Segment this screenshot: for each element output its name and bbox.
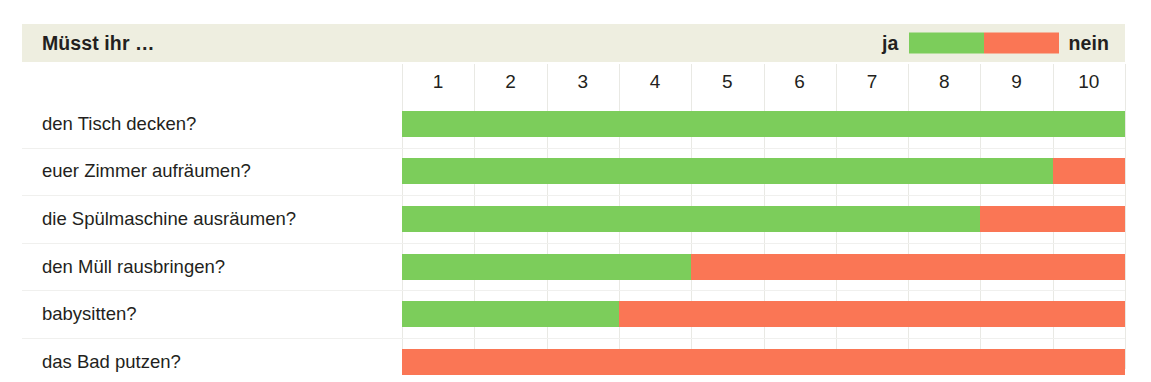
row-label: euer Zimmer aufräumen? [42, 160, 251, 182]
stacked-bar [402, 206, 1125, 232]
legend-label-no: nein [1069, 32, 1110, 55]
row-label: den Tisch decken? [42, 113, 196, 135]
bar-segment-yes [402, 254, 691, 280]
row-separator [22, 148, 1125, 149]
x-axis-tick-6: 6 [764, 64, 836, 100]
legend-label-yes: ja [882, 32, 898, 55]
x-axis-tick-1: 1 [402, 64, 474, 100]
bar-segment-no [619, 301, 1125, 327]
bar-segment-no [980, 206, 1125, 232]
x-axis-tick-10: 10 [1053, 64, 1125, 100]
x-axis-tick-8: 8 [908, 64, 980, 100]
bar-segment-yes [402, 301, 619, 327]
bar-segment-yes [402, 206, 980, 232]
row-label: babysitten? [42, 303, 137, 325]
stacked-bar [402, 254, 1125, 280]
chart-header-band: Müsst ihr … ja nein [22, 24, 1125, 62]
row-separator [22, 338, 1125, 339]
x-axis-tick-5: 5 [691, 64, 763, 100]
chart-rows: den Tisch decken?euer Zimmer aufräumen?d… [0, 100, 1151, 382]
page-title: Müsst ihr … [42, 32, 155, 55]
bar-segment-no [691, 254, 1125, 280]
x-axis-scale: 12345678910 [402, 64, 1125, 100]
x-axis-tick-7: 7 [836, 64, 908, 100]
chart-row: das Bad putzen? [0, 338, 1151, 382]
survey-bar-chart: Müsst ihr … ja nein 12345678910 den Tisc… [0, 0, 1151, 382]
chart-row: babysitten? [0, 290, 1151, 338]
row-separator [22, 195, 1125, 196]
row-label: das Bad putzen? [42, 351, 181, 373]
stacked-bar [402, 158, 1125, 184]
x-axis-tick-3: 3 [547, 64, 619, 100]
legend: ja nein [882, 32, 1109, 55]
bar-segment-no [1053, 158, 1125, 184]
legend-swatch-yes [909, 33, 984, 54]
stacked-bar [402, 111, 1125, 137]
row-label: die Spülmaschine ausräumen? [42, 208, 296, 230]
bar-segment-no [402, 349, 1125, 375]
stacked-bar [402, 301, 1125, 327]
row-separator [22, 290, 1125, 291]
chart-row: den Tisch decken? [0, 100, 1151, 148]
bar-segment-yes [402, 158, 1053, 184]
chart-row: euer Zimmer aufräumen? [0, 148, 1151, 196]
x-axis-tick-4: 4 [619, 64, 691, 100]
chart-row: die Spülmaschine ausräumen? [0, 195, 1151, 243]
row-label: den Müll rausbringen? [42, 256, 225, 278]
x-axis-tick-9: 9 [980, 64, 1052, 100]
legend-swatch-no [984, 33, 1059, 54]
stacked-bar [402, 349, 1125, 375]
row-separator [22, 243, 1125, 244]
chart-row: den Müll rausbringen? [0, 243, 1151, 291]
bar-segment-yes [402, 111, 1125, 137]
legend-swatch [909, 33, 1059, 54]
x-axis-tick-2: 2 [474, 64, 546, 100]
